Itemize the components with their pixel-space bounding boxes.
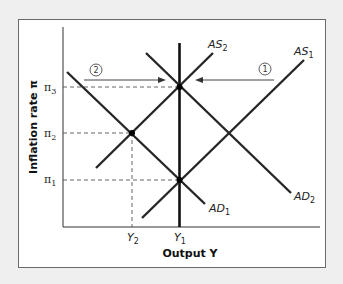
svg-text:2: 2 (93, 66, 98, 75)
as-ad-diagram: 2 1 AS2 AS1 AD1 AD2 π3 π2 π1 Y2 Y1 Outpu… (0, 0, 343, 284)
svg-text:1: 1 (262, 65, 267, 74)
equilibrium-dot-1 (177, 177, 183, 183)
x-axis-title: Output Y (162, 247, 218, 260)
equilibrium-dot-3 (177, 84, 183, 90)
diagram-frame (19, 20, 326, 268)
y-axis-title: Inflation rate π (27, 80, 40, 174)
equilibrium-dot-2 (129, 130, 135, 136)
